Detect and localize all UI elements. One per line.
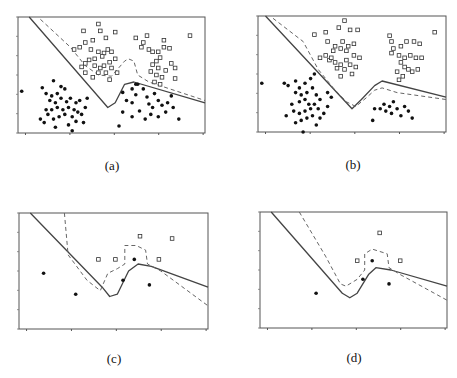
square-marker [102,64,106,68]
dot-marker [46,113,50,117]
square-marker [392,47,396,51]
square-marker [80,65,84,69]
dot-marker [326,105,330,109]
caption-a: (a) [92,158,132,174]
square-marker [348,28,352,32]
square-marker [84,71,88,75]
solid-boundary-curve [30,213,208,297]
dot-marker [284,114,288,118]
square-marker [114,258,118,262]
dot-marker [309,77,313,81]
square-marker [416,68,420,72]
square-marker [388,34,392,38]
square-marker [160,76,164,80]
dot-marker [74,101,78,105]
dot-marker [307,102,311,106]
dot-marker [39,117,43,121]
square-marker [343,68,347,72]
square-marker [333,44,337,48]
square-marker [158,83,162,87]
square-marker [153,80,157,84]
square-marker [333,61,337,65]
dot-marker [133,258,137,262]
dot-marker [177,117,181,121]
dot-marker [298,100,302,104]
square-marker [157,258,161,262]
dot-marker [298,112,302,116]
square-marker [173,77,177,81]
dot-marker [318,116,322,120]
dot-marker [313,102,317,106]
square-marker [162,45,166,49]
square-marker [151,50,155,54]
square-marker [343,19,347,23]
dot-marker [121,279,125,283]
dot-marker [403,105,407,109]
square-marker [339,75,343,79]
square-marker [412,40,416,44]
dot-marker [303,82,307,86]
dot-marker [52,79,56,83]
square-marker [110,50,114,54]
dot-marker [407,109,411,113]
square-marker [407,68,411,72]
square-marker [113,30,117,34]
dot-marker [125,99,129,103]
dot-marker [373,107,377,111]
dot-marker [299,119,303,123]
dot-marker [326,91,330,95]
dot-marker [84,106,88,110]
square-marker [89,48,93,52]
dot-marker [309,107,313,111]
dot-marker [387,282,391,286]
square-marker [104,36,108,40]
dot-marker [330,95,334,99]
square-marker [99,29,103,33]
dot-marker [82,121,86,125]
dot-marker [370,259,374,263]
scatter-plot-d [260,212,447,328]
dot-marker [59,85,63,89]
square-marker [99,66,103,70]
square-marker [156,50,160,54]
square-marker [339,47,343,51]
square-marker [418,42,422,46]
dot-marker [290,102,294,106]
square-marker [403,65,407,69]
square-marker [158,56,162,60]
dot-marker [303,109,307,113]
square-marker [345,58,349,62]
dot-marker [61,108,65,112]
square-marker [390,40,394,44]
dot-marker [138,109,142,113]
square-marker [170,62,174,66]
square-marker [164,69,168,73]
dot-marker [361,278,365,282]
dot-marker [315,93,319,97]
dot-marker [142,87,146,91]
scatter-plot-c [19,213,208,329]
square-marker [358,56,362,60]
plot-frame [260,212,447,328]
square-marker [91,38,95,42]
dot-marker [322,112,326,116]
square-marker [97,50,101,54]
square-marker [330,56,334,60]
dot-marker [299,93,303,97]
square-marker [414,56,418,60]
dot-marker [313,72,317,76]
dot-marker [42,272,46,276]
square-marker [142,41,146,45]
square-marker [108,60,112,64]
dot-marker [56,92,60,96]
dot-marker [63,113,67,117]
dot-marker [130,115,134,119]
square-marker [433,30,437,34]
dot-marker [20,89,24,93]
square-marker [173,66,177,70]
square-marker [345,49,349,53]
dot-marker [392,100,396,104]
dot-marker [65,100,69,104]
dot-marker [318,98,322,102]
plot-frame [18,17,205,133]
